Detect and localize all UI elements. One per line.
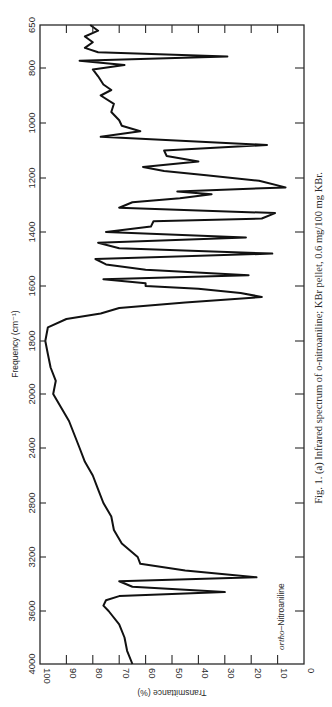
frequency-tick-label: 800 — [26, 60, 37, 76]
transmittance-axis-title: Transmittance (%) — [137, 688, 206, 698]
figure-caption: Fig. 1. (a) Infrared spectrum of o-nitro… — [313, 172, 325, 504]
transmittance-tick-label: 60 — [147, 668, 158, 679]
transmittance-tick-label: 90 — [68, 668, 79, 679]
frequency-tick-label: 1000 — [26, 112, 37, 133]
transmittance-tick-label: 70 — [121, 668, 132, 679]
compound-annotation-suffix: –Nitroaniline — [276, 583, 286, 631]
transmittance-tick-label: 30 — [226, 668, 237, 679]
frequency-tick-label: 3600 — [26, 600, 37, 621]
transmittance-tick-label: 10 — [279, 668, 290, 679]
spectrum-line — [45, 25, 285, 664]
compound-annotation-prefix: ortho — [276, 630, 286, 650]
ir-spectrum-figure: 6508001000120014001600180020002400280032… — [0, 0, 332, 707]
transmittance-tick-label: 0 — [306, 668, 317, 673]
ir-spectrum-chart: 6508001000120014001600180020002400280032… — [0, 0, 332, 707]
frequency-tick-label: 2000 — [26, 383, 37, 404]
frequency-tick-label: 1800 — [26, 330, 37, 351]
transmittance-tick-label: 20 — [253, 668, 264, 679]
frequency-tick-label: 1600 — [26, 275, 37, 296]
transmittance-tick-label: 40 — [200, 668, 211, 679]
transmittance-tick-labels: 1009080706050403020100 — [42, 668, 317, 684]
frequency-tick-label: 3200 — [26, 546, 37, 567]
frequency-tick-label: 650 — [26, 17, 37, 33]
transmittance-tick-label: 50 — [174, 668, 185, 679]
transmittance-tick-label: 80 — [94, 668, 105, 679]
frequency-axis-title: Frequency (cm⁻¹) — [10, 310, 20, 378]
frequency-tick-label: 2800 — [26, 492, 37, 513]
compound-annotation: ortho–Nitroaniline — [276, 583, 286, 650]
frequency-tick-label: 1200 — [26, 167, 37, 188]
frequency-tick-label: 1400 — [26, 221, 37, 242]
transmittance-tick-label: 100 — [42, 668, 53, 684]
frequency-tick-labels: 6508001000120014001600180020002400280032… — [26, 17, 37, 675]
frequency-tick-label: 4000 — [26, 653, 37, 674]
frequency-tick-label: 2400 — [26, 437, 37, 458]
